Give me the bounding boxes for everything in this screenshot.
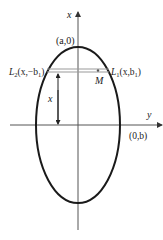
horizontal-axis-label: y <box>146 109 152 120</box>
right-vertex-label: (0,b) <box>129 131 147 142</box>
ellipse-diagram: x y (a,0) (0,b) M x L2(x,−b1) L1(x,b1) <box>0 0 163 240</box>
vertical-axis-label: x <box>66 9 72 20</box>
midpoint-m-label: M <box>94 75 104 86</box>
midpoint-m-dot <box>97 69 99 71</box>
chord-right-label: L1(x,b1) <box>110 67 141 78</box>
chord-left-label: L2(x,−b1) <box>8 67 44 78</box>
dimension-x-label: x <box>47 93 53 104</box>
top-vertex-label: (a,0) <box>56 35 75 47</box>
